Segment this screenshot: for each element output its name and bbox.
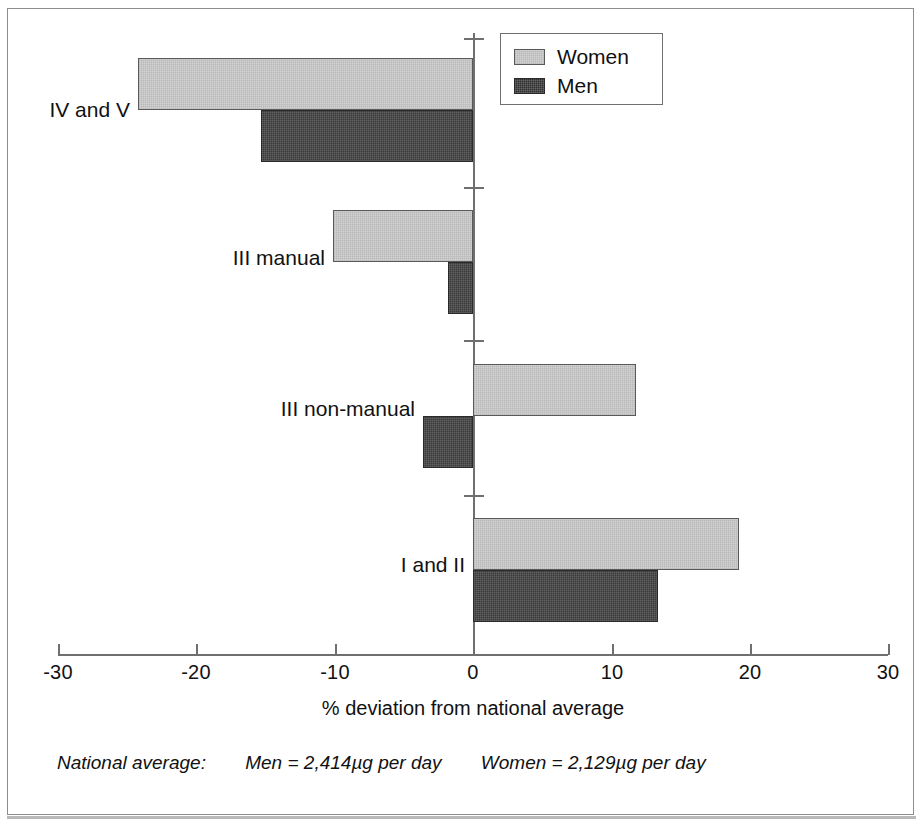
chart-page: -30 -20 -10 0 10 20 30 IV and V III manu… <box>0 0 923 830</box>
y-separator-tick <box>464 340 484 342</box>
bar-men-iii-manual <box>448 262 473 314</box>
legend-item-women: Women <box>514 45 629 69</box>
category-label-i-and-ii: I and II <box>401 553 465 577</box>
x-tick-label: 10 <box>601 661 624 684</box>
plot-area: -30 -20 -10 0 10 20 30 IV and V III manu… <box>0 0 923 830</box>
chart-legend: Women Men <box>500 33 663 105</box>
y-separator-tick <box>464 495 484 497</box>
footnote-women-value: Women = 2,129µg per day <box>481 752 706 773</box>
x-tick-label: -20 <box>181 661 211 684</box>
women-swatch-icon <box>514 49 545 65</box>
bar-women-i-and-ii <box>473 518 739 570</box>
y-separator-tick <box>464 187 484 189</box>
legend-item-men: Men <box>514 74 598 98</box>
x-tick-mark <box>473 644 475 655</box>
category-label-iii-manual: III manual <box>233 246 325 270</box>
x-tick-mark <box>58 644 60 655</box>
x-axis-title: % deviation from national average <box>322 697 624 720</box>
bar-women-iii-manual <box>333 210 473 262</box>
x-tick-label: 0 <box>467 661 478 684</box>
bar-women-iv-and-v <box>138 58 473 110</box>
footnote-men-value: Men = 2,414µg per day <box>245 752 441 773</box>
national-average-footnote: National average: Men = 2,414µg per day … <box>57 752 706 774</box>
bar-women-iii-non-manual <box>473 364 636 416</box>
x-tick-mark <box>335 644 337 655</box>
legend-label-women: Women <box>557 45 629 69</box>
category-label-iv-and-v: IV and V <box>49 98 130 122</box>
bar-men-iii-non-manual <box>423 416 473 468</box>
x-tick-mark <box>612 644 614 655</box>
legend-label-men: Men <box>557 74 598 98</box>
footnote-label: National average: <box>57 752 206 773</box>
category-label-iii-non-manual: III non-manual <box>281 397 415 421</box>
x-tick-label: -10 <box>320 661 350 684</box>
bar-men-iv-and-v <box>261 110 473 162</box>
y-separator-tick <box>464 38 484 40</box>
bar-men-i-and-ii <box>473 570 658 622</box>
x-tick-mark <box>750 644 752 655</box>
x-tick-label: -30 <box>43 661 73 684</box>
x-tick-mark <box>196 644 198 655</box>
x-tick-label: 30 <box>877 661 900 684</box>
x-tick-label: 20 <box>739 661 762 684</box>
x-tick-mark <box>888 644 890 655</box>
men-swatch-icon <box>514 78 545 94</box>
